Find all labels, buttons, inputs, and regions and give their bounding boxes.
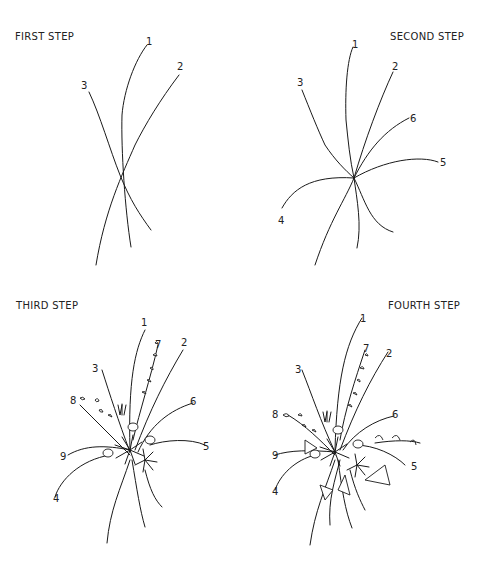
- step3-label-1: 1: [141, 317, 147, 328]
- flower-arrangement-diagram: 1 2 3 1 2 3 4 5 6: [0, 0, 486, 575]
- step3-label-5: 5: [203, 441, 209, 452]
- step3-label-4: 4: [53, 493, 59, 504]
- step1-label-2: 2: [177, 61, 183, 72]
- third-step-drawing: 1 2 3 4 5 6 7 8 9: [53, 317, 209, 543]
- step3-label-3: 3: [92, 363, 98, 374]
- step4-label-3: 3: [295, 364, 301, 375]
- step3-label-2: 2: [181, 337, 187, 348]
- step4-label-6: 6: [392, 409, 398, 420]
- step1-label-1: 1: [146, 36, 152, 47]
- step4-label-4: 4: [272, 486, 278, 497]
- step2-label-1: 1: [352, 39, 358, 50]
- step1-label-3: 3: [81, 80, 87, 91]
- step3-label-9: 9: [60, 451, 66, 462]
- step4-label-8: 8: [272, 409, 278, 420]
- step4-label-2: 2: [386, 348, 392, 359]
- step2-label-4: 4: [278, 215, 284, 226]
- step3-label-7: 7: [155, 339, 161, 350]
- step3-label-8: 8: [70, 395, 76, 406]
- step3-label-6: 6: [190, 396, 196, 407]
- step4-label-1: 1: [360, 313, 366, 324]
- step4-label-9: 9: [272, 450, 278, 461]
- step4-label-5: 5: [411, 461, 417, 472]
- step2-label-6: 6: [410, 113, 416, 124]
- second-step-drawing: 1 2 3 4 5 6: [278, 39, 446, 265]
- step2-label-3: 3: [297, 77, 303, 88]
- first-step-drawing: 1 2 3: [81, 36, 183, 265]
- fourth-step-drawing: 1 2 3 4 5 6 7 8 9: [272, 313, 420, 545]
- step4-label-7: 7: [363, 343, 369, 354]
- step2-label-5: 5: [440, 157, 446, 168]
- step2-label-2: 2: [392, 61, 398, 72]
